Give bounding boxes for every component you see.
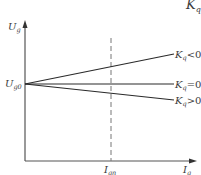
- line-kq-positive: [25, 84, 174, 100]
- label-kq-zero: Kq=0: [174, 79, 201, 92]
- label-kq-negative: Kq<0: [174, 49, 201, 62]
- x-axis-label: Ig: [182, 164, 191, 175]
- y-axis-arrow-icon: [23, 20, 28, 28]
- corner-label-fragment: Kq: [185, 0, 201, 14]
- y-axis-label: Ug: [8, 21, 21, 34]
- line-kq-negative: [25, 54, 174, 84]
- ug-vs-ig-diagram: Kq Ug Ig Ug0 Ign Kq<0 Kq=0 Kq>0: [0, 0, 201, 175]
- label-kq-positive: Kq>0: [174, 95, 201, 108]
- origin-label: Ug0: [5, 78, 22, 91]
- rated-current-label: Ign: [103, 164, 116, 175]
- x-axis-arrow-icon: [189, 159, 197, 164]
